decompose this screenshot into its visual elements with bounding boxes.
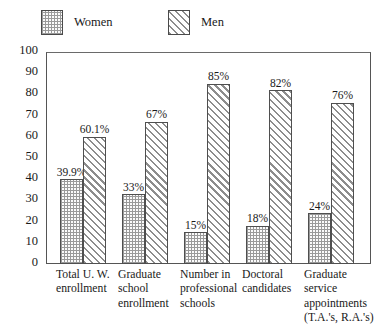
bar-group: 33%67% [122,52,168,264]
bar-men[interactable]: 67% [145,122,168,264]
x-axis: Total U. W.enrollmentGraduateschoolenrol… [46,268,371,333]
bar-value-label: 24% [309,201,330,213]
x-axis-category-label: Graduateschoolenrollment [118,268,169,311]
bar-men[interactable]: 85% [207,84,230,264]
category-label-line: Number in [180,268,237,282]
bar-value-label: 76% [332,90,353,102]
bar-value-label: 82% [270,78,291,90]
x-axis-category-label: Graduateserviceappointments(T.A.'s, R.A.… [304,268,374,325]
bar-women[interactable]: 24% [308,213,331,264]
bar-men[interactable]: 60.1% [83,137,106,264]
category-label-line: Doctoral [242,268,291,282]
bar-value-label: 85% [208,71,229,83]
category-label-line: enrollment [56,282,110,296]
category-label-line: appointments [304,297,374,311]
x-axis-category-label: Number inprofessionalschools [180,268,237,311]
bar-women[interactable]: 15% [184,232,207,264]
y-axis-tick-label: 50 [26,150,39,163]
legend-swatch-men-icon [168,10,190,35]
bar-value-label: 15% [185,220,206,232]
bar-men[interactable]: 82% [269,90,292,264]
category-label-line: enrollment [118,297,169,311]
bar-group: 15%85% [184,52,230,264]
bar-value-label: 60.1% [80,124,110,136]
bar-women[interactable]: 18% [246,226,269,264]
bar-group: 18%82% [246,52,292,264]
y-axis: 1009080706050403020100 [0,0,46,264]
bar-value-label: 18% [247,213,268,225]
bars-layer: 39.9%60.1%33%67%15%85%18%82%24%76% [46,52,371,264]
x-axis-category-label: Doctoralcandidates [242,268,291,297]
category-label-line: Graduate [304,268,374,282]
y-axis-tick-label: 30 [26,192,39,205]
y-axis-tick-label: 70 [26,108,39,121]
x-axis-category-label: Total U. W.enrollment [56,268,110,297]
y-axis-tick-label: 90 [26,65,39,78]
category-label-line: candidates [242,282,291,296]
bar-group: 39.9%60.1% [60,52,106,264]
bar-value-label: 39.9% [57,167,87,179]
category-label-line: Graduate [118,268,169,282]
chart-legend: Women Men [0,10,386,44]
bar-women[interactable]: 39.9% [60,179,83,264]
y-axis-tick-label: 20 [26,214,39,227]
category-label-line: professional [180,282,237,296]
bar-men[interactable]: 76% [331,103,354,264]
y-axis-tick-label: 0 [32,256,38,269]
category-label-line: school [118,282,169,296]
y-axis-tick-label: 60 [26,129,39,142]
category-label-line: (T.A.'s, R.A.'s) [304,311,374,325]
category-label-line: schools [180,297,237,311]
bar-value-label: 67% [146,109,167,121]
category-label-line: Total U. W. [56,268,110,282]
y-axis-tick-label: 100 [19,44,38,57]
y-axis-tick-label: 80 [26,86,39,99]
bar-women[interactable]: 33% [122,194,145,264]
bar-value-label: 33% [123,182,144,194]
y-axis-tick-label: 10 [26,235,39,248]
legend-label-women: Women [74,16,113,29]
bar-group: 24%76% [308,52,354,264]
category-label-line: service [304,282,374,296]
legend-label-men: Men [201,16,224,29]
y-axis-tick-label: 40 [26,171,39,184]
